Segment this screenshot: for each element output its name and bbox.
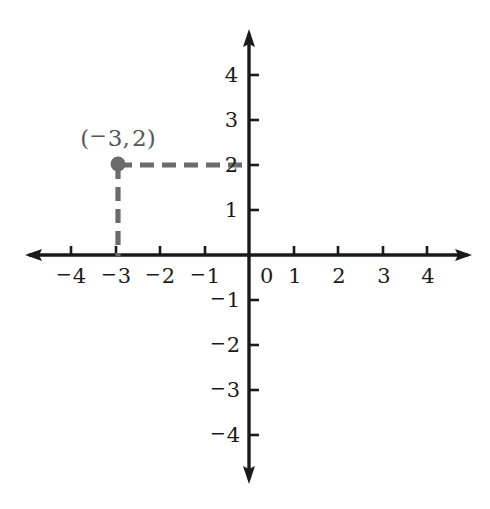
minus-sign: − — [56, 263, 73, 286]
x-axis-label--4: −4 — [56, 266, 86, 287]
annotation-x-value: 3 — [108, 125, 123, 151]
point-coordinate-annotation: (−3, 2) — [80, 127, 155, 150]
annotation-close-paren: ) — [147, 125, 156, 151]
x-axis-label-2: 2 — [332, 266, 345, 287]
y-axis-label-1: 1 — [225, 200, 238, 221]
annotation-comma: , — [122, 125, 129, 151]
minus-sign: − — [210, 421, 227, 444]
minus-sign: − — [190, 263, 207, 286]
x-axis-label--3: −3 — [101, 266, 131, 287]
y-axis-label--3: −3 — [210, 380, 240, 401]
graph-canvas — [0, 0, 490, 509]
plotted-point-marker — [111, 157, 126, 172]
minus-sign: − — [210, 286, 227, 309]
y-axis-label--4: −4 — [210, 425, 240, 446]
y-axis-label--2: −2 — [210, 335, 240, 356]
annotation-minus-sign: − — [89, 123, 108, 148]
annotation-open-paren: ( — [80, 125, 89, 151]
x-axis-label--1: −1 — [190, 266, 220, 287]
annotation-y-value: 2 — [132, 125, 147, 151]
x-axis-label-4: 4 — [421, 266, 434, 287]
y-axis-label-4: 4 — [225, 65, 238, 86]
y-axis-label-3: 3 — [225, 110, 238, 131]
minus-sign: − — [101, 263, 118, 286]
y-axis-label--1: −1 — [210, 290, 240, 311]
y-axis-label-2: 2 — [225, 155, 238, 176]
x-axis-label--2: −2 — [145, 266, 175, 287]
minus-sign: − — [210, 331, 227, 354]
minus-sign: − — [210, 376, 227, 399]
coordinate-plane-figure: −4 −3 −2 −1 0 1 2 3 4 4 3 2 1 −1 −2 −3 −… — [0, 0, 490, 509]
x-axis-label-1: 1 — [288, 266, 301, 287]
x-axis-label-0: 0 — [260, 266, 273, 287]
minus-sign: − — [145, 263, 162, 286]
x-axis-label-3: 3 — [377, 266, 390, 287]
